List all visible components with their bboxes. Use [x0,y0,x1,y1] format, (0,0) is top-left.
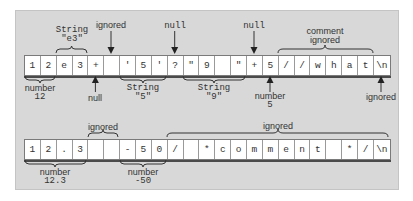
token-cell: 5 [136,56,152,75]
token-cell: 3 [73,140,89,159]
token-cell: e [57,56,73,75]
label-ignored-spaces: ignored [83,123,123,132]
token-cell: " [231,56,247,75]
token-cell: / [168,140,184,159]
label-string-5: String "5" [123,84,163,102]
token-cell: n [295,140,311,159]
token-cell: " [184,56,200,75]
token-cell: t [358,56,374,75]
token-cell: 3 [73,56,89,75]
token-row-bottom: 12.3 -50/ *comment */\n [24,139,391,160]
token-row-top: 12e3+ '5'?"9 "+5//what\n [24,55,391,76]
token-cell [184,140,200,159]
token-cell [326,140,342,159]
token-cell: 5 [136,140,152,159]
token-cell: t [310,140,326,159]
token-cell [215,56,231,75]
token-cell: 1 [25,140,41,159]
token-cell: * [199,140,215,159]
label-number-12: number 12 [20,84,60,102]
token-cell: 9 [199,56,215,75]
token-cell: / [358,140,374,159]
token-cell [104,56,120,75]
token-cell: / [295,56,311,75]
token-cell: \n [374,56,390,75]
token-cell: a [342,56,358,75]
label-ignored-newline: ignored [361,93,401,102]
token-cell: . [57,140,73,159]
token-cell: 0 [152,140,168,159]
token-cell: \n [374,140,390,159]
token-cell: w [310,56,326,75]
token-cell: - [120,140,136,159]
token-cell: 2 [41,140,57,159]
label-string-e3: String "e3" [51,26,93,44]
token-cell: + [247,56,263,75]
label-ignored-comment: ignored [258,122,298,131]
token-cell: c [215,140,231,159]
token-cell: / [279,56,295,75]
token-cell: o [231,140,247,159]
token-cell: 5 [263,56,279,75]
label-null-plus-first: null [80,94,110,103]
token-cell: * [342,140,358,159]
token-cell: m [263,140,279,159]
token-cell: 2 [41,56,57,75]
label-number-12-3: number 12.3 [35,168,75,186]
token-cell: ? [168,56,184,75]
token-cell [88,140,104,159]
label-null-question: null [155,22,195,31]
token-cell: + [88,56,104,75]
token-cell [104,140,120,159]
token-cell: m [247,140,263,159]
label-null-plus: null [234,22,274,31]
label-number-5: number 5 [250,92,290,110]
label-string-9: String "9" [194,84,234,102]
token-cell: h [326,56,342,75]
token-cell: ' [120,56,136,75]
label-number-neg50: number -50 [123,168,163,186]
label-comment-ignored: comment ignored [300,27,350,45]
token-cell: e [279,140,295,159]
token-cell: 1 [25,56,41,75]
token-cell: ' [152,56,168,75]
label-ignored-space: ignored [91,21,131,30]
